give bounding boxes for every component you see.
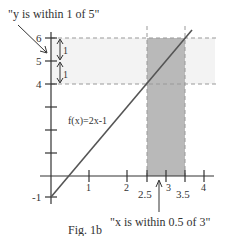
x-annotation-pointer: [156, 180, 162, 212]
x-tick-label-2: 2: [124, 182, 129, 193]
function-label: f(x)=2x-1: [68, 115, 107, 127]
delta-lower-label: 1: [63, 69, 68, 80]
figure-canvas: "y is within 1 of 5" "x is within 0.5 of…: [0, 0, 229, 236]
y-tolerance-band: [51, 38, 215, 84]
x-tick-label-3-5: 3.5: [176, 188, 190, 200]
y-annotation-pointer: [18, 25, 47, 53]
x-tick-label-1: 1: [86, 182, 91, 193]
y-tick-label-4: 4: [36, 78, 42, 90]
figure-caption: Fig. 1b: [68, 223, 102, 236]
y-tick-label-5: 5: [36, 55, 42, 67]
x-tick-label-4: 4: [201, 182, 206, 193]
x-annotation-label: "x is within 0.5 of 3": [110, 215, 211, 229]
y-tick-label-6: 6: [36, 32, 42, 44]
y-tick-label-neg1: -1: [32, 191, 41, 203]
x-tick-label-2-5: 2.5: [138, 188, 152, 200]
delta-upper-label: 1: [63, 45, 68, 56]
x-tolerance-band: [147, 38, 185, 176]
x-tick-label-3: 3: [166, 182, 171, 193]
y-annotation-label: "y is within 1 of 5": [8, 7, 100, 21]
